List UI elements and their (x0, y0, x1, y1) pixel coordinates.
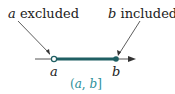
caption-a: a (75, 77, 82, 91)
tick-label-b: b (112, 64, 120, 79)
label-b-var: b (108, 6, 116, 21)
pointer-arrow-a (18, 21, 50, 54)
interval-notation: (a, b] (70, 77, 102, 91)
label-b-included: b included (108, 6, 175, 21)
label-a-excluded: a excluded (8, 6, 79, 21)
arrowhead-a (46, 49, 50, 55)
number-line-arrow-icon (128, 56, 136, 62)
pointer-arrow-b (119, 21, 140, 54)
arrowhead-b (117, 50, 121, 56)
label-included: included (120, 6, 175, 21)
caption-close-bracket: ] (97, 77, 102, 91)
tick-label-a: a (50, 64, 58, 79)
closed-endpoint-b (113, 56, 119, 62)
open-endpoint-a (51, 56, 56, 61)
label-excluded: excluded (20, 6, 79, 21)
label-a-var: a (8, 6, 16, 21)
